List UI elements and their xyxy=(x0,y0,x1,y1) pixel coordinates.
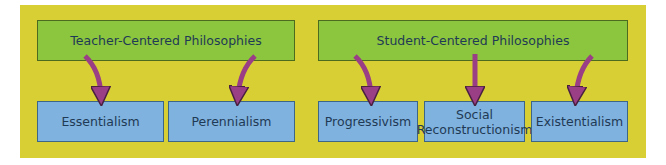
arrow-icon xyxy=(576,56,592,96)
arrow-icon xyxy=(355,56,371,96)
arrow-icon xyxy=(238,56,255,96)
arrows-layer xyxy=(0,0,666,165)
arrow-icon xyxy=(85,56,101,96)
